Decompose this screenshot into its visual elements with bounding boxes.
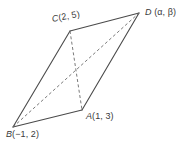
vertex-coords-A: (1, 3) [92, 111, 114, 121]
geometry-canvas [0, 0, 183, 146]
edge-D-A [82, 13, 139, 110]
vertex-coords-D: (α, β) [154, 7, 176, 17]
vertex-label-D: D (α, β) [145, 8, 176, 17]
vertex-label-A: A(1, 3) [86, 112, 114, 121]
vertex-letter-D: D [145, 7, 152, 17]
vertex-coords-B: (−1, 2) [12, 129, 39, 139]
parallelogram-figure: C(2, 5) D (α, β) A(1, 3) B(−1, 2) [0, 0, 183, 146]
dashed-diagonals [13, 13, 139, 127]
edge-C-D [70, 13, 139, 31]
diagonal-C-A [70, 31, 82, 110]
edge-B-C [13, 31, 70, 127]
vertex-label-B: B(−1, 2) [6, 130, 39, 139]
edge-A-B [13, 110, 82, 127]
